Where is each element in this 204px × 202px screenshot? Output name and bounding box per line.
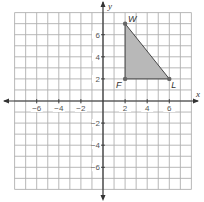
y-axis-arrow-down-icon xyxy=(101,195,106,201)
y-tick-label: 2 xyxy=(96,75,101,84)
y-axis-arrow-up-icon xyxy=(101,1,106,7)
x-tick-label: 4 xyxy=(145,104,150,113)
coordinate-plane: xy −6−4−2246642−2−4−6 WFL xyxy=(0,0,204,202)
vertex-point-w xyxy=(123,21,127,25)
x-tick-label: −6 xyxy=(32,104,42,113)
x-tick-label: 6 xyxy=(167,104,172,113)
y-tick-label: 4 xyxy=(96,53,101,62)
y-axis-label: y xyxy=(107,1,112,11)
x-axis-arrow-right-icon xyxy=(193,99,199,104)
x-tick-label: −4 xyxy=(54,104,64,113)
vertex-label-l: L xyxy=(171,80,176,90)
x-axis-arrow-left-icon xyxy=(3,99,9,104)
x-tick-label: −2 xyxy=(76,104,86,113)
x-axis-label: x xyxy=(195,89,200,99)
y-tick-label: −4 xyxy=(91,141,101,150)
y-tick-label: −6 xyxy=(91,163,101,172)
y-tick-label: 6 xyxy=(96,31,101,40)
x-tick-label: 2 xyxy=(123,104,128,113)
axes: xy xyxy=(3,1,200,201)
vertex-label-f: F xyxy=(116,80,122,90)
vertex-point-f xyxy=(123,77,127,81)
y-tick-label: −2 xyxy=(91,119,101,128)
vertex-label-w: W xyxy=(128,14,138,24)
